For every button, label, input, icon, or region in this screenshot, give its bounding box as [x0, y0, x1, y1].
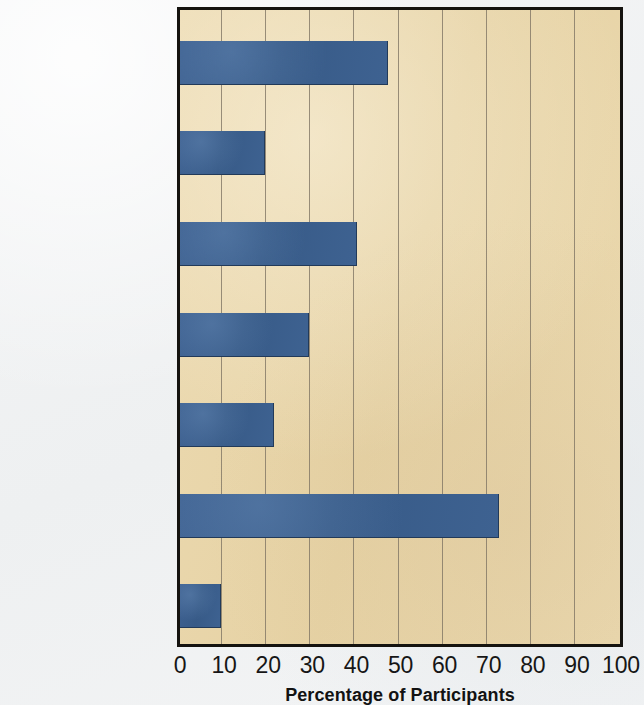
bar-row	[180, 41, 621, 84]
bar	[180, 313, 309, 357]
x-axis-tick-labels: 0102030405060708090100	[0, 651, 644, 681]
bar	[180, 494, 499, 538]
bar-row	[180, 494, 621, 537]
bar	[180, 584, 221, 628]
bar-row	[180, 222, 621, 265]
bar	[180, 131, 265, 175]
bar	[180, 403, 274, 447]
x-axis-title: Percentage of Participants	[177, 685, 623, 705]
bar-row	[180, 403, 621, 446]
x-tick-label-100: 100	[586, 651, 644, 679]
horizontal-bar-chart: Run-downoffice buildingOrdinaryperson gi…	[0, 0, 644, 705]
bar	[180, 222, 357, 266]
plot-frame	[177, 7, 623, 647]
bar-row	[180, 313, 621, 356]
bar-row	[180, 131, 621, 174]
bar-row	[180, 584, 621, 627]
bar	[180, 41, 388, 85]
